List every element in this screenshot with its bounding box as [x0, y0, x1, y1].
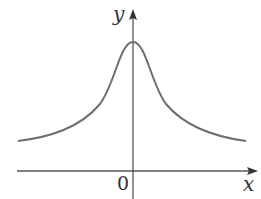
- graph-canvas: [0, 0, 261, 199]
- origin-label: 0: [117, 172, 129, 194]
- graph-figure: y x 0: [0, 0, 261, 199]
- x-axis-label: x: [243, 172, 254, 196]
- bell-curve: [18, 42, 246, 141]
- y-axis-label: y: [113, 2, 124, 26]
